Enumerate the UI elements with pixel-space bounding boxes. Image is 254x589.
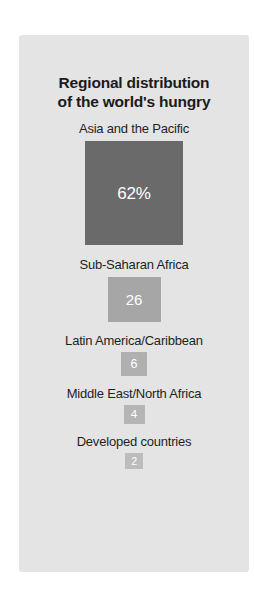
value-square-middle-east-north-africa: 4 — [124, 405, 145, 424]
page-title: Regional distribution of the world's hun… — [39, 73, 229, 111]
proportional-square-series: Asia and the Pacific 62% Sub-Saharan Afr… — [19, 121, 249, 469]
series-item-developed-countries: Developed countries 2 — [19, 434, 249, 469]
value-label-developed-countries: 2 — [131, 456, 137, 467]
title-line-2: of the world's hungry — [39, 92, 229, 111]
category-label-asia-pacific: Asia and the Pacific — [79, 121, 189, 137]
category-label-latin-america-caribbean: Latin America/Caribbean — [65, 333, 203, 349]
series-item-sub-saharan-africa: Sub-Saharan Africa 26 — [19, 257, 249, 322]
series-item-latin-america-caribbean: Latin America/Caribbean 6 — [19, 333, 249, 376]
infographic-figure: Regional distribution of the world's hun… — [0, 0, 254, 589]
value-square-latin-america-caribbean: 6 — [121, 352, 147, 376]
category-label-middle-east-north-africa: Middle East/North Africa — [67, 386, 202, 402]
chart-panel-content: Regional distribution of the world's hun… — [19, 35, 249, 572]
category-label-sub-saharan-africa: Sub-Saharan Africa — [79, 257, 188, 273]
chart-panel: Regional distribution of the world's hun… — [19, 35, 249, 572]
category-label-developed-countries: Developed countries — [77, 434, 192, 450]
title-line-1: Regional distribution — [39, 73, 229, 92]
value-label-sub-saharan-africa: 26 — [126, 292, 143, 307]
series-item-asia-pacific: Asia and the Pacific 62% — [19, 121, 249, 245]
value-label-middle-east-north-africa: 4 — [131, 409, 137, 421]
value-square-asia-pacific: 62% — [85, 141, 183, 245]
value-label-asia-pacific: 62% — [117, 185, 151, 202]
value-square-sub-saharan-africa: 26 — [108, 277, 161, 322]
value-square-developed-countries: 2 — [125, 453, 143, 469]
series-item-middle-east-north-africa: Middle East/North Africa 4 — [19, 386, 249, 424]
value-label-latin-america-caribbean: 6 — [131, 358, 138, 371]
